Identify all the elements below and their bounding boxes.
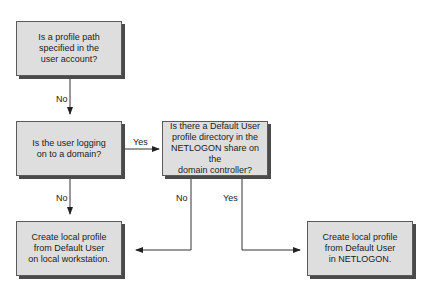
node-text: Create local profile from Default User i…: [322, 232, 397, 265]
node-text: Create local profile from Default User o…: [28, 232, 110, 265]
edge-label-no: No: [56, 193, 68, 203]
edge-label-yes: Yes: [223, 193, 238, 203]
node-default-user-netlogon: Is there a Default User profile director…: [162, 121, 268, 176]
node-logging-domain: Is the user logging on to a domain?: [16, 121, 122, 176]
edge-label-yes: Yes: [133, 137, 148, 147]
edge-label-no: No: [176, 193, 188, 203]
node-text: Is a profile path specified in the user …: [38, 32, 100, 65]
node-create-netlogon: Create local profile from Default User i…: [307, 221, 413, 276]
edge-label-no: No: [56, 94, 68, 104]
node-profile-path: Is a profile path specified in the user …: [16, 21, 122, 76]
node-text: Is the user logging on to a domain?: [32, 138, 106, 160]
node-create-local-workstation: Create local profile from Default User o…: [16, 221, 122, 276]
edge-netlogon-to-create: [242, 178, 300, 250]
edge-netlogon-to-local: [136, 178, 191, 250]
node-text: Is there a Default User profile director…: [167, 121, 263, 176]
